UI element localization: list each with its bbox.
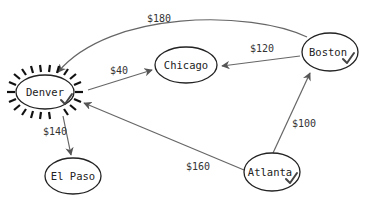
- node-label-atlanta: Atlanta: [248, 166, 292, 178]
- node-boston[interactable]: Boston: [302, 33, 358, 71]
- graph-canvas: $180 $120 $40 $140 $160 $100: [0, 0, 372, 207]
- edge-boston-chicago[interactable]: $120: [222, 43, 300, 66]
- edge-atlanta-boston[interactable]: $100: [273, 73, 316, 153]
- node-label-chicago: Chicago: [164, 59, 208, 71]
- node-chicago[interactable]: Chicago: [155, 47, 217, 83]
- edge-denver-chicago[interactable]: $40: [88, 65, 152, 90]
- node-atlanta[interactable]: Atlanta: [244, 153, 300, 191]
- edge-atlanta-denver[interactable]: $160: [84, 103, 244, 172]
- node-label-boston: Boston: [309, 46, 347, 58]
- edge-label-denver-chicago: $40: [110, 65, 128, 76]
- edge-denver-elpaso[interactable]: $140: [43, 116, 71, 155]
- node-denver[interactable]: Denver: [7, 65, 83, 119]
- edge-label-boston-chicago: $120: [250, 43, 274, 54]
- node-label-denver: Denver: [26, 86, 64, 98]
- node-elpaso[interactable]: El Paso: [45, 158, 101, 194]
- edge-label-atlanta-boston: $100: [292, 118, 316, 129]
- edge-label-boston-denver: $180: [147, 13, 171, 24]
- edge-label-atlanta-denver: $160: [186, 161, 210, 172]
- node-label-elpaso: El Paso: [51, 170, 95, 182]
- edge-label-denver-elpaso: $140: [43, 126, 67, 137]
